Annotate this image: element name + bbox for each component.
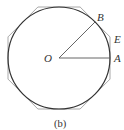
figure-caption: (b) [54,118,67,130]
octagon-circle-diagram: O A B E (b) [0,0,124,130]
label-a: A [113,52,121,64]
label-e: E [113,33,121,45]
radius-ob [59,22,95,58]
label-b: B [97,11,104,23]
label-o: O [44,52,52,64]
